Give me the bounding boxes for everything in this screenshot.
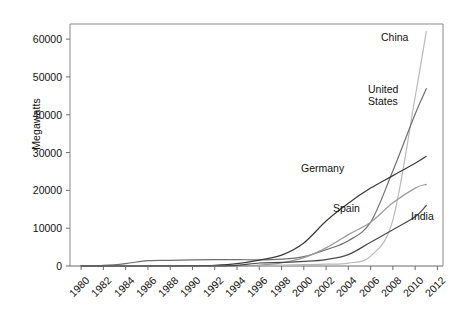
axis-frame [70,24,443,266]
series-line-germany [81,156,426,266]
series-line-china [81,32,426,266]
series-line-spain [81,184,426,266]
plot-area [0,0,461,320]
chart-figure: Megawatts 010000200003000040000500006000… [0,0,461,320]
